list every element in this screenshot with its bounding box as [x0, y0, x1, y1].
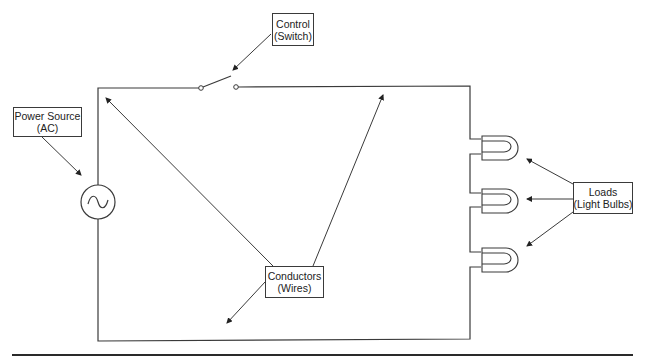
arrow-power-source	[42, 137, 81, 175]
conductors-label-line1: Conductors	[268, 270, 322, 282]
arrow-conductor-1	[106, 98, 273, 266]
control-label-line1: Control	[276, 18, 310, 30]
arrow-load-3	[527, 212, 573, 246]
light-bulb-icon	[482, 248, 518, 272]
arrow-load-1	[527, 159, 573, 184]
bottom-divider	[12, 354, 633, 356]
circuit-diagram	[0, 0, 646, 362]
arrow-conductor-2	[313, 95, 383, 266]
power-source-label-line1: Power Source	[15, 110, 81, 122]
circuit-wires	[98, 86, 481, 341]
control-label-line2: (Switch)	[274, 30, 312, 42]
loads-light-bulbs-label: Loads (Light Bulbs)	[573, 182, 633, 214]
arrow-conductor-3	[227, 282, 265, 323]
arrow-control	[233, 34, 271, 70]
open-switch-icon	[199, 76, 239, 90]
loads-label-line2: (Light Bulbs)	[574, 198, 633, 210]
control-switch-label: Control (Switch)	[272, 13, 314, 46]
light-bulb-icon	[482, 136, 518, 160]
conductors-wires-label: Conductors (Wires)	[265, 266, 324, 298]
loads-label-line1: Loads	[589, 186, 618, 198]
ac-source-icon	[81, 185, 115, 219]
power-source-label-line2: (AC)	[37, 122, 59, 134]
power-source-label: Power Source (AC)	[13, 107, 82, 137]
light-bulb-icon	[482, 189, 518, 213]
conductors-label-line2: (Wires)	[278, 282, 312, 294]
